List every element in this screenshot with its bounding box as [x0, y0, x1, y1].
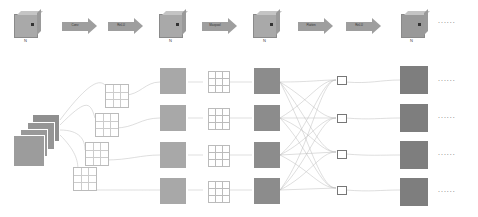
- feature-cube-2: [159, 14, 183, 38]
- conv-output-3: [160, 142, 186, 168]
- pooled-output-4: [254, 178, 280, 204]
- conv-output-4: [160, 178, 186, 204]
- ellipsis-row-4: ......: [438, 186, 456, 193]
- pool-grid-3: [208, 145, 230, 167]
- feature-cube-3: [253, 14, 277, 38]
- kernel-cube-4: [73, 167, 97, 191]
- kernel-cube-2: [95, 113, 119, 137]
- cube-label-1: N: [24, 38, 27, 43]
- small-kernel-1: [337, 76, 347, 85]
- cube-label-3: N: [263, 38, 266, 43]
- ellipsis-row-2: ......: [438, 112, 456, 119]
- feature-cube-4: [401, 14, 425, 38]
- marker-icon: [31, 23, 34, 26]
- final-output-2: [400, 104, 428, 132]
- pooled-output-1: [254, 68, 280, 94]
- ellipsis-top: ......: [438, 17, 456, 24]
- cube-label-2: N: [169, 38, 172, 43]
- conv-output-2: [160, 105, 186, 131]
- pooled-output-2: [254, 105, 280, 131]
- pool-grid-4: [208, 181, 230, 203]
- marker-icon: [176, 23, 179, 26]
- kernel-cube-3: [85, 142, 109, 166]
- ellipsis-row-1: ......: [438, 75, 456, 82]
- small-kernel-3: [337, 150, 347, 159]
- cube-label-4: N: [410, 38, 413, 43]
- pool-grid-1: [208, 71, 230, 93]
- kernel-cube-1: [105, 84, 129, 108]
- ellipsis-row-3: ......: [438, 149, 456, 156]
- input-layer-1: [13, 135, 45, 167]
- final-output-3: [400, 141, 428, 169]
- small-kernel-4: [337, 186, 347, 195]
- marker-icon: [418, 23, 421, 26]
- final-output-4: [400, 178, 428, 206]
- feature-cube-1: [14, 14, 38, 38]
- final-output-1: [400, 66, 428, 94]
- marker-icon: [270, 23, 273, 26]
- conv-output-1: [160, 68, 186, 94]
- pool-grid-2: [208, 108, 230, 130]
- small-kernel-2: [337, 114, 347, 123]
- pooled-output-3: [254, 142, 280, 168]
